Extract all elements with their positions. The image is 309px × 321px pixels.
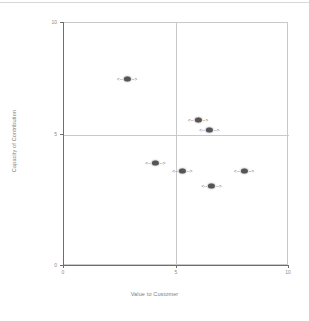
x-tick-mark-5: [176, 265, 177, 268]
data-point-label-left: <--: [199, 128, 205, 133]
quadrant-horizontal-line: [64, 135, 289, 136]
y-tick-label-0: 0: [54, 262, 57, 268]
data-point-marker[interactable]: [241, 169, 248, 174]
data-point-label-right: -->: [216, 184, 222, 189]
x-tick-mark-10: [288, 265, 289, 268]
data-point-marker[interactable]: [208, 184, 215, 189]
data-point[interactable]: <---->: [234, 169, 254, 174]
y-tick-label-10: 10: [51, 19, 57, 25]
data-point-label-left: <--: [172, 169, 178, 174]
data-point[interactable]: <---->: [117, 77, 137, 82]
data-point-label-right: -->: [214, 128, 220, 133]
y-axis-title: Capacity of Contribution: [11, 81, 17, 201]
data-point[interactable]: <---->: [145, 160, 165, 165]
data-point-label-right: -->: [203, 118, 209, 123]
data-point-label-right: -->: [187, 169, 193, 174]
data-point-label-right: -->: [160, 160, 166, 165]
data-point-marker[interactable]: [152, 160, 159, 165]
data-point[interactable]: <---->: [201, 184, 221, 189]
data-point-label-left: <--: [188, 118, 194, 123]
data-point-marker[interactable]: [179, 169, 186, 174]
data-point[interactable]: <---->: [188, 118, 208, 123]
data-point-label-left: <--: [117, 77, 123, 82]
x-tick-mark-0: [63, 265, 64, 268]
plot-area: [63, 22, 288, 265]
y-tick-mark-10: [60, 22, 63, 23]
x-axis-title: Value to Customer: [0, 291, 309, 297]
top-divider: [0, 2, 309, 3]
data-point-marker[interactable]: [206, 128, 213, 133]
data-point-label-right: -->: [249, 169, 255, 174]
x-tick-label-5: 5: [175, 269, 178, 275]
y-tick-label-5: 5: [54, 131, 57, 137]
y-tick-mark-0: [60, 265, 63, 266]
data-point-label-right: -->: [132, 77, 138, 82]
data-point-label-left: <--: [201, 184, 207, 189]
x-tick-label-0: 0: [62, 269, 65, 275]
data-point-marker[interactable]: [195, 118, 202, 123]
x-tick-label-10: 10: [285, 269, 291, 275]
data-point-marker[interactable]: [124, 77, 131, 82]
scatter-chart: 0 5 10 0 5 10 Value to Customer Capacity…: [0, 0, 309, 321]
data-point[interactable]: <---->: [172, 169, 192, 174]
data-point-label-left: <--: [234, 169, 240, 174]
data-point-label-left: <--: [145, 160, 151, 165]
data-point[interactable]: <---->: [199, 128, 219, 133]
quadrant-vertical-line: [176, 23, 177, 266]
y-tick-mark-5: [60, 134, 63, 135]
y-axis-line: [63, 22, 64, 266]
